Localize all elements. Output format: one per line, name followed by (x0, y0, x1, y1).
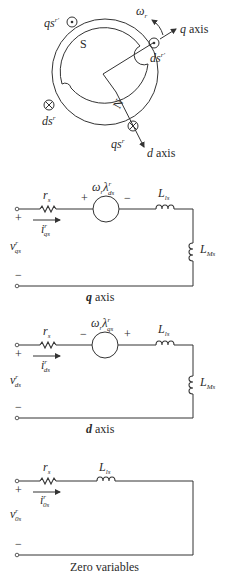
label-voltage: vr0s (10, 507, 22, 523)
label-omega-r: ωr (136, 4, 147, 20)
terminal-bottom (15, 284, 19, 288)
label-d-axis: d axis (147, 146, 176, 160)
stator-outer-circle (52, 19, 158, 125)
caption-d-axis: d axis (86, 422, 115, 436)
label-plus: + (15, 211, 22, 225)
zero-sequence-circuit: rs Lls ir0s vr0s + − Zero variables (10, 460, 193, 574)
stator-inner-circle (60, 28, 148, 104)
inductor-lls (156, 205, 174, 209)
winding-qs-r-prime-dot (67, 17, 77, 27)
resistor-rs (40, 342, 56, 348)
label-rs: rs (43, 188, 51, 204)
rotor-pole-s: S (80, 37, 87, 51)
pmsm-equivalent-circuit-figure: S N qsr′ dsr′ dsr qsr ωr q axis d axis r… (0, 0, 228, 585)
inductor-lls (156, 341, 174, 345)
terminal-bottom (15, 416, 19, 420)
label-source-minus: − (124, 191, 131, 205)
label-qs-r-prime: qsr′ (44, 16, 59, 30)
terminal-bottom (15, 553, 19, 557)
label-source-emf: ωrλrqs (91, 316, 113, 333)
winding-ds-r-cross (44, 100, 54, 110)
rotation-arc (152, 20, 163, 35)
label-minus: − (15, 537, 22, 551)
label-minus: − (15, 400, 22, 414)
label-voltage: vrds (10, 373, 21, 389)
caption-q-axis: q axis (86, 290, 115, 304)
d-axis-circuit: rs − + ωrλrqs Lls LMs irds vrds + − d ax… (10, 316, 216, 436)
label-plus: + (15, 483, 22, 497)
label-lms: LMs (199, 375, 216, 391)
label-current: irds (41, 358, 50, 374)
label-plus: + (15, 347, 22, 361)
rotor-link-line (103, 74, 116, 92)
label-voltage: vrqs (10, 239, 21, 255)
resistor-rs (40, 478, 56, 484)
winding-ds-r-prime-dot (149, 38, 159, 48)
label-ds-r-prime: dsr′ (150, 51, 165, 65)
label-source-minus: − (80, 327, 87, 341)
label-lms: LMs (199, 242, 216, 258)
q-axis-circuit: rs + − ωrλrds Lls LMs irqs vrqs + − q ax… (10, 180, 216, 304)
label-q-axis: q axis (180, 22, 209, 36)
label-minus: − (15, 268, 22, 282)
machine-cross-section: S N qsr′ dsr′ dsr qsr ωr q axis d axis (42, 4, 209, 160)
label-current: ir0s (40, 493, 50, 509)
label-rs: rs (43, 324, 51, 340)
q-axis-line-inner (103, 43, 153, 74)
label-rs: rs (43, 460, 51, 476)
inductor-lms (189, 243, 193, 261)
winding-qs-r-cross (128, 121, 138, 131)
caption-zero-variables: Zero variables (70, 560, 139, 574)
label-qs-r: qsr (111, 137, 125, 151)
label-source-emf: ωrλrds (92, 180, 114, 197)
label-current: irqs (41, 222, 50, 238)
voltage-source (92, 332, 118, 358)
label-ds-r: dsr (42, 114, 56, 128)
label-lls: Lls (98, 460, 111, 476)
resistor-rs (40, 206, 56, 212)
label-lls: Lls (157, 322, 170, 338)
inductor-lms (189, 376, 193, 394)
label-source-plus: + (124, 327, 131, 341)
voltage-source (93, 196, 119, 222)
label-lls: Lls (157, 186, 170, 202)
label-source-plus: + (81, 191, 88, 205)
inductor-lls (97, 477, 115, 481)
